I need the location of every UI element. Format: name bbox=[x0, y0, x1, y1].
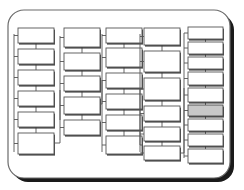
process-box[interactable] bbox=[64, 53, 100, 70]
process-box[interactable] bbox=[188, 88, 223, 102]
process-box[interactable] bbox=[188, 134, 223, 146]
process-box[interactable] bbox=[64, 120, 100, 135]
process-box[interactable] bbox=[18, 91, 54, 106]
process-box[interactable] bbox=[144, 106, 180, 121]
process-box[interactable] bbox=[18, 28, 54, 43]
process-box[interactable] bbox=[144, 28, 180, 45]
process-box[interactable] bbox=[106, 28, 142, 43]
process-box[interactable] bbox=[144, 127, 180, 141]
process-box[interactable] bbox=[144, 78, 180, 100]
process-box[interactable] bbox=[106, 136, 142, 154]
process-box[interactable] bbox=[64, 28, 100, 47]
diagram-canvas bbox=[0, 0, 244, 190]
process-box[interactable] bbox=[18, 112, 54, 127]
column-2 bbox=[60, 28, 101, 137]
process-box[interactable] bbox=[106, 94, 142, 109]
process-box-highlighted[interactable] bbox=[188, 105, 223, 116]
process-box[interactable] bbox=[188, 57, 223, 69]
process-box[interactable] bbox=[106, 115, 142, 130]
process-box[interactable] bbox=[188, 27, 223, 39]
process-box[interactable] bbox=[18, 133, 54, 154]
process-box[interactable] bbox=[64, 76, 100, 91]
process-box[interactable] bbox=[188, 119, 223, 131]
column-5 bbox=[184, 27, 224, 165]
process-box[interactable] bbox=[18, 49, 54, 64]
process-box[interactable] bbox=[188, 42, 223, 54]
flowchart-svg bbox=[0, 0, 244, 190]
process-box[interactable] bbox=[144, 146, 180, 160]
process-box[interactable] bbox=[64, 97, 100, 114]
process-box[interactable] bbox=[188, 149, 223, 163]
process-box[interactable] bbox=[106, 48, 142, 67]
process-box[interactable] bbox=[144, 51, 180, 72]
process-box[interactable] bbox=[188, 72, 223, 85]
process-box[interactable] bbox=[106, 73, 142, 88]
process-box[interactable] bbox=[18, 70, 54, 85]
